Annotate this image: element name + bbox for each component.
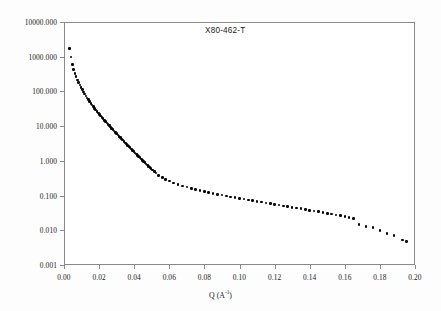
y-tick-mark (60, 230, 64, 231)
data-point (72, 68, 75, 71)
x-tick-mark (64, 265, 65, 269)
x-tick-mark (204, 265, 205, 269)
data-point (229, 196, 232, 199)
data-point (386, 232, 389, 235)
data-point (164, 178, 167, 181)
data-point (216, 193, 219, 196)
y-tick-mark (60, 161, 64, 162)
y-tick-label: 0.001 (40, 261, 57, 270)
x-tick-mark (240, 265, 241, 269)
data-point (401, 239, 404, 242)
chart-annotation-label: X80-462-T (205, 26, 245, 35)
x-tick-label: 0.02 (79, 273, 119, 282)
data-point (225, 195, 228, 198)
data-point (339, 214, 342, 217)
x-tick-mark (345, 265, 346, 269)
chart-figure: dΣ/dΩ (cm-1 sr-1) X80-462-T Q (A-1) 1000… (0, 0, 441, 311)
data-point (203, 190, 206, 193)
x-tick-label: 0.06 (149, 273, 189, 282)
x-tick-label: 0.04 (114, 273, 154, 282)
y-tick-mark (60, 91, 64, 92)
data-point (68, 47, 71, 50)
data-point (282, 205, 285, 208)
data-point (251, 199, 254, 202)
y-tick-mark (60, 22, 64, 23)
data-point (181, 185, 184, 188)
data-point (358, 223, 361, 226)
x-tick-label: 0.20 (395, 273, 435, 282)
data-point (161, 176, 164, 179)
data-point (194, 188, 197, 191)
x-tick-mark (169, 265, 170, 269)
data-point (365, 225, 368, 228)
x-tick-label: 0.14 (290, 273, 330, 282)
data-point (317, 210, 320, 213)
x-tick-label: 0.12 (255, 273, 295, 282)
x-tick-mark (99, 265, 100, 269)
y-tick-mark (60, 126, 64, 127)
x-tick-label: 0.16 (325, 273, 365, 282)
data-point (172, 182, 175, 185)
x-tick-mark (275, 265, 276, 269)
data-point (157, 174, 160, 177)
data-point (322, 211, 325, 214)
x-tick-label: 0.08 (184, 273, 224, 282)
y-tick-label: 10000.000 (25, 18, 57, 27)
x-axis-title: Q (A-1) (0, 289, 441, 300)
x-tick-label: 0.00 (44, 273, 84, 282)
x-tick-mark (380, 265, 381, 269)
x-tick-mark (310, 265, 311, 269)
y-tick-label: 100.000 (32, 87, 57, 96)
y-tick-label: 0.100 (40, 192, 57, 201)
data-point (326, 212, 329, 215)
x-axis-title-text: Q (A-1) (209, 291, 232, 300)
data-point (71, 63, 74, 66)
data-point (199, 189, 202, 192)
data-point (304, 208, 307, 211)
data-point (190, 187, 193, 190)
data-point (352, 217, 355, 220)
data-point (269, 202, 272, 205)
data-point (207, 191, 210, 194)
x-tick-mark (134, 265, 135, 269)
x-tick-label: 0.18 (360, 273, 400, 282)
data-point (247, 199, 250, 202)
data-point (168, 180, 171, 183)
data-point (379, 229, 382, 232)
data-point (405, 240, 408, 243)
data-point (308, 209, 311, 212)
y-tick-label: 0.010 (40, 226, 57, 235)
data-point (273, 203, 276, 206)
y-tick-label: 1000.000 (28, 53, 57, 62)
x-tick-mark (415, 265, 416, 269)
data-point (74, 72, 77, 75)
y-tick-mark (60, 57, 64, 58)
y-tick-label: 1.000 (40, 157, 57, 166)
y-axis-title: dΣ/dΩ (cm-1 sr-1) (14, 100, 26, 111)
y-tick-mark (60, 196, 64, 197)
x-tick-label: 0.10 (220, 273, 260, 282)
y-tick-label: 10.000 (36, 122, 57, 131)
data-point (286, 205, 289, 208)
data-point (238, 197, 241, 200)
plot-area (64, 22, 415, 265)
data-point (344, 215, 347, 218)
